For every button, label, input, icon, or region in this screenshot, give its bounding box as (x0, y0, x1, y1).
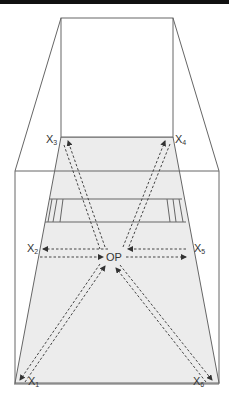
left-edge (15, 18, 61, 171)
label-center-op: OP (106, 251, 122, 263)
label-x3: X3 (46, 133, 57, 146)
label-x2: X2 (27, 242, 38, 255)
right-edge (173, 18, 219, 171)
back-wall (61, 18, 173, 137)
label-x4: X4 (175, 133, 186, 146)
label-x5: X5 (194, 242, 205, 255)
room-diagram: X3 X4 X2 X5 OP X1 X6 (0, 0, 229, 393)
